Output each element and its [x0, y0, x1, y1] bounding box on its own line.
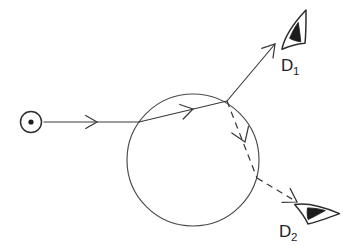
ray-diagram-canvas: D 1 D 2: [0, 0, 345, 246]
ray-to-detector-1-line: [227, 44, 275, 101]
detector-1-eye-icon[interactable]: [273, 10, 322, 57]
detector-1-label-group: D 1: [281, 56, 299, 77]
detector-2-eye-icon[interactable]: [289, 193, 339, 235]
source-center-dot: [28, 119, 33, 124]
incident-ray-group: [44, 116, 139, 129]
detector-2-label: D: [279, 222, 291, 241]
detector-2-label-group: D 2: [279, 222, 297, 243]
ray-to-detector-2-arrowhead: [282, 189, 297, 203]
ray-to-d1-group: [227, 44, 275, 101]
detector-2-subscript: 2: [291, 231, 297, 243]
detector-1-label: D: [281, 56, 293, 75]
internal-dashed-ray-group: [227, 101, 257, 178]
internal-refracted-ray-group: [139, 101, 227, 122]
optical-ray-diagram: D 1 D 2: [0, 0, 345, 246]
ray-to-d2-group: [257, 178, 297, 202]
detector-1-subscript: 1: [293, 65, 299, 77]
spherical-medium-circle: [127, 94, 259, 226]
point-light-source: [21, 112, 42, 133]
